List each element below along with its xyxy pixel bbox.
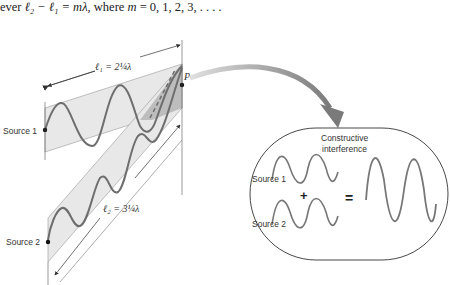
inset-source-1-label: Source 1: [252, 174, 286, 184]
inset-title-2: interference: [322, 144, 367, 154]
curved-arrow-icon: [190, 67, 330, 108]
inset-title-1: Constructive: [321, 133, 369, 143]
plus-sign: +: [300, 188, 308, 203]
l2-label: ℓ₂ = 3¼λ: [103, 203, 140, 214]
source-1-label: Source 1: [3, 126, 37, 136]
source-2-label: Source 2: [6, 237, 40, 247]
interference-diagram: Source 1 Source 2 P ℓ₁ = 2¼λ ℓ₂ = 3¼λ Co…: [0, 0, 450, 285]
inset-source-2-label: Source 2: [252, 219, 286, 229]
l1-label: ℓ₁ = 2¼λ: [95, 61, 132, 72]
equals-sign: =: [345, 190, 353, 206]
source-2-dot: [46, 240, 50, 244]
point-p-label: P: [183, 71, 190, 82]
